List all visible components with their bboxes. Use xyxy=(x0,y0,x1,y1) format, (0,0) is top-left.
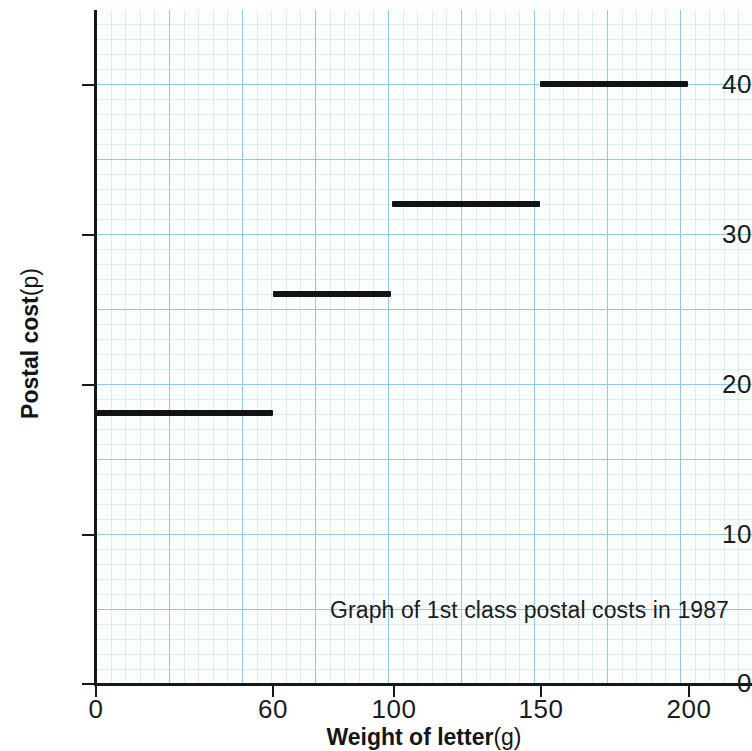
y-tick-mark-0 xyxy=(82,683,95,685)
step-segment-2 xyxy=(273,291,392,297)
step-segment-3 xyxy=(392,201,540,207)
y-tick-mark-40 xyxy=(82,84,95,86)
x-tick-label-200: 200 xyxy=(644,694,734,725)
step-segment-4 xyxy=(540,81,688,87)
y-tick-mark-10 xyxy=(82,534,95,536)
step-segment-1 xyxy=(95,410,273,416)
chart-annotation: Graph of 1st class postal costs in 1987 xyxy=(330,597,729,624)
graph-paper-grid xyxy=(96,10,752,684)
x-tick-label-60: 60 xyxy=(228,694,318,725)
y-tick-mark-20 xyxy=(82,384,95,386)
x-tick-label-100: 100 xyxy=(349,694,439,725)
x-axis-line xyxy=(94,683,752,686)
x-axis-title: Weight of letter(g) xyxy=(96,724,752,751)
y-axis-line xyxy=(94,10,97,685)
x-tick-label-150: 150 xyxy=(496,694,586,725)
x-axis-title-text: Weight of letter xyxy=(326,724,493,750)
chart-figure: 40 30 20 10 0 0 60 100 150 200 Graph of … xyxy=(0,0,752,751)
y-axis-title-unit: (p) xyxy=(17,268,43,296)
x-tick-label-0: 0 xyxy=(51,694,141,725)
y-axis-title: Postal cost(p) xyxy=(17,194,44,494)
x-axis-title-unit: (g) xyxy=(493,724,521,750)
y-axis-title-text: Postal cost xyxy=(17,296,43,419)
y-tick-label-10: 10 xyxy=(676,519,752,550)
y-tick-label-20: 20 xyxy=(676,369,752,400)
y-tick-label-30: 30 xyxy=(676,219,752,250)
y-tick-mark-30 xyxy=(82,234,95,236)
